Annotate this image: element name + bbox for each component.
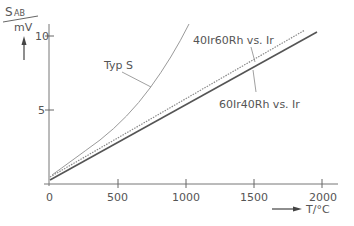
- x-tick-label-0: 0: [46, 191, 53, 204]
- x-ticks: 0 500 1000 1500 2000: [46, 179, 337, 204]
- x-tick-label-1000: 1000: [172, 191, 200, 204]
- annotation-typ-s: Typ S: [103, 59, 151, 87]
- leader-line-typ-s: [122, 72, 151, 87]
- y-tick-label-5: 5: [38, 104, 45, 117]
- annotation-label-60ir40rh: 60Ir40Rh vs. Ir: [219, 98, 300, 111]
- annotation-40ir60rh: 40Ir60Rh vs. Ir: [193, 34, 274, 62]
- y-tick-label-10: 10: [35, 30, 49, 43]
- x-axis-label: T/°C: [272, 203, 330, 216]
- y-label-main: S: [5, 5, 13, 19]
- x-tick-label-500: 500: [107, 191, 128, 204]
- leader-line-60ir40rh: [253, 70, 256, 92]
- thermocouple-chart: S AB mV 10 5 0 500 1000 1500: [0, 0, 354, 226]
- x-tick-label-1500: 1500: [240, 191, 268, 204]
- annotation-label-typ-s: Typ S: [103, 59, 133, 72]
- chart-svg: S AB mV 10 5 0 500 1000 1500: [0, 0, 354, 226]
- y-label-sub: AB: [14, 9, 25, 18]
- x-label-unit: T/°C: [305, 203, 330, 216]
- arrow-up-icon: [22, 36, 27, 45]
- y-ticks: 10 5: [35, 30, 54, 117]
- series-typ-s: [52, 24, 189, 175]
- y-axis-label: S AB mV: [3, 5, 38, 60]
- annotation-60ir40rh: 60Ir40Rh vs. Ir: [219, 70, 300, 111]
- y-label-unit: mV: [14, 21, 33, 34]
- arrow-right-icon: [293, 207, 302, 212]
- annotation-label-40ir60rh: 40Ir60Rh vs. Ir: [193, 34, 274, 47]
- leader-line-40ir60rh: [251, 47, 255, 62]
